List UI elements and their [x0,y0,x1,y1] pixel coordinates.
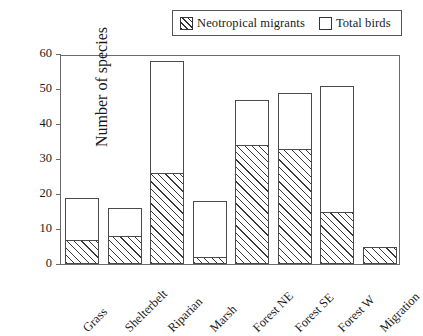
bar-segment-neotropical-migrants[interactable] [150,173,184,264]
x-axis-label: Grass [80,305,111,336]
bar-segment-neotropical-migrants[interactable] [278,149,312,265]
x-axis-label: Migration [377,290,423,336]
bar-segment-neotropical-migrants[interactable] [65,240,99,265]
bar-segment-neotropical-migrants[interactable] [235,145,269,264]
bar-group[interactable] [320,54,354,264]
y-axis-tick-label: 40 [40,116,53,131]
bar-group[interactable] [193,54,227,264]
x-axis-label: Riparian [165,295,206,336]
x-axis-label: Shelterbelt [122,287,171,336]
bar-group[interactable] [235,54,269,264]
bar-group[interactable] [150,54,184,264]
x-axis-label: Forest NE [250,289,297,336]
x-axis-label: Marsh [207,302,240,335]
bar-segment-neotropical-migrants[interactable] [320,212,354,265]
legend-label-neotropical-migrants: Neotropical migrants [197,17,305,30]
bar-segment-neotropical-migrants[interactable] [108,236,142,264]
x-axis-label: Forest SE [292,290,337,335]
y-axis-tick-label: 30 [40,151,53,166]
y-axis-tick-mark [56,264,61,265]
bar-segment-neotropical-migrants[interactable] [193,257,227,264]
bar-group[interactable] [108,54,142,264]
legend-swatch-hatched-icon [180,17,193,30]
plot-area: Number of species 0102030405060 GrassShe… [60,55,400,265]
legend-swatch-white-icon [319,17,332,30]
y-axis-tick-mark [56,54,61,55]
y-axis-tick-label: 0 [46,256,52,271]
legend-item-neotropical-migrants: Neotropical migrants [180,17,305,30]
bar-group[interactable] [278,54,312,264]
bars-container [61,56,399,264]
y-axis-tick-label: 10 [40,221,53,236]
y-axis-tick-label: 50 [40,81,53,96]
y-axis-tick-label: 20 [40,186,53,201]
bar-segment-total-birds[interactable] [193,201,227,264]
legend-label-total-birds: Total birds [336,17,391,30]
bar-group[interactable] [363,54,397,264]
bar-group[interactable] [65,54,99,264]
x-axis-label: Forest W [335,293,378,336]
bar-segment-neotropical-migrants[interactable] [363,247,397,265]
y-axis-tick-label: 60 [40,46,53,61]
legend-item-total-birds: Total birds [319,17,391,30]
chart-legend: Neotropical migrants Total birds [172,10,402,36]
